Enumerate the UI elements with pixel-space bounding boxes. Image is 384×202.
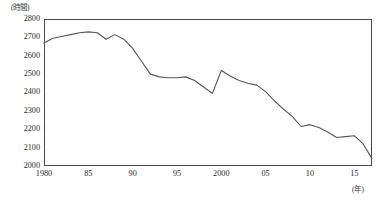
y-tick-label: 2600 [13, 52, 40, 60]
y-tick-label: 2300 [13, 107, 40, 115]
y-tick-label: 2200 [13, 125, 40, 133]
x-tick-label: 85 [84, 170, 92, 178]
y-tick-label: 2100 [13, 144, 40, 152]
chart-figure: (時間) 28002700260025002400230022002100200… [0, 0, 384, 202]
x-tick-label: 05 [262, 170, 270, 178]
y-tick-label: 2400 [13, 88, 40, 96]
x-tick-label: 2000 [213, 170, 229, 178]
x-axis-unit-label: (年) [352, 183, 364, 194]
x-tick-label: 1980 [36, 170, 52, 178]
x-tick-label: 15 [350, 170, 358, 178]
y-tick-label: 2800 [13, 15, 40, 23]
y-axis-ticks: 280027002600250024002300220021002000 [0, 0, 384, 202]
x-tick-label: 10 [306, 170, 314, 178]
y-tick-label: 2700 [13, 33, 40, 41]
x-tick-label: 90 [129, 170, 137, 178]
x-tick-label: 95 [173, 170, 181, 178]
y-tick-label: 2500 [13, 70, 40, 78]
